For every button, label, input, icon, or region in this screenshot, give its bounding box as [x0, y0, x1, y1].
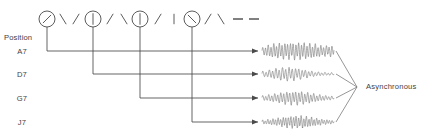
position-label: Position: [4, 33, 32, 42]
tick-mark-7: [205, 14, 211, 24]
asynchronous-position-diagram: Position A7 D7 G7 J7 Asynchronous: [0, 0, 437, 140]
converge-line-d7: [336, 74, 357, 87]
waveform-a7: [262, 43, 334, 60]
waveform-g7: [262, 92, 334, 106]
waveform-group: [262, 43, 334, 129]
tick-mark-8: [218, 14, 224, 24]
tick-mark-3: [107, 14, 113, 24]
tick-mark-4: [121, 14, 127, 24]
dial-4[interactable]: [184, 11, 200, 27]
wire-a7: [47, 27, 258, 51]
row-label-d7: D7: [17, 70, 27, 79]
dial-2[interactable]: [85, 11, 101, 27]
tick-mark-2: [73, 14, 79, 24]
row-label-j7: J7: [18, 118, 26, 127]
convergence-lines: [336, 51, 357, 122]
signal-wires: [47, 27, 258, 122]
waveform-d7: [262, 68, 334, 82]
row-label-a7: A7: [17, 47, 27, 56]
dial-1[interactable]: [39, 11, 55, 27]
wire-j7: [192, 27, 258, 122]
dial-3[interactable]: [132, 11, 148, 27]
converge-line-a7: [336, 51, 357, 87]
diagram-canvas: Position A7 D7 G7 J7 Asynchronous: [0, 0, 437, 140]
tick-mark-5: [155, 14, 161, 24]
wire-d7: [93, 27, 258, 74]
row-label-g7: G7: [17, 94, 27, 103]
tick-mark-1: [60, 14, 66, 24]
wire-g7: [140, 27, 258, 98]
waveform-j7: [262, 115, 334, 128]
asynchronous-label: Asynchronous: [366, 82, 417, 91]
